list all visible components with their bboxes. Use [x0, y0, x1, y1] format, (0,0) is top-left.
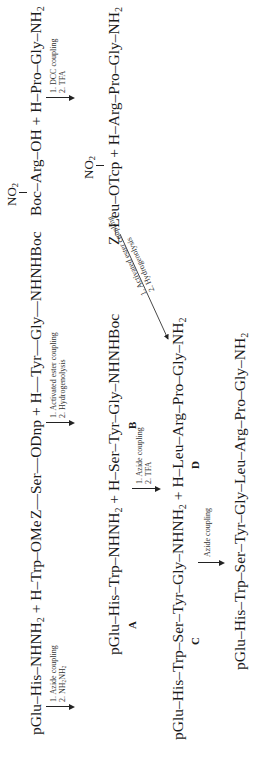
label-d: D	[190, 461, 201, 469]
synthesis-scheme: pGlu–His–NHNH2 + H–Trp–OMe 1. Azide coup…	[0, 0, 263, 759]
label-c: C	[190, 637, 201, 645]
diagonal-arrow	[0, 0, 263, 759]
conditions-6: Azide coupling	[203, 508, 212, 557]
final-product: pGlu–His–Trp–Ser–Tyr–Gly–Leu–Arg–Pro–Gly…	[232, 333, 248, 670]
intermediates-c-d: pGlu–His–Trp–Ser–Tyr–Gly–NHNH2 + H–Leu–A…	[170, 318, 186, 740]
arrowhead-6	[219, 560, 225, 566]
